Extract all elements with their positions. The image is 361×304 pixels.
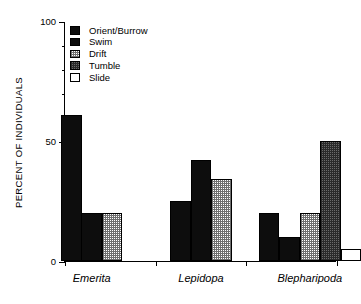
x-axis-category-label: Lepidopa <box>178 273 223 284</box>
legend-item-label: Slide <box>89 73 110 83</box>
x-axis-category-label: Emerita <box>73 273 111 284</box>
bar <box>279 237 300 261</box>
x-axis-tick <box>246 261 247 266</box>
y-axis-major-tick <box>59 22 65 23</box>
legend-item-label: Orient/Burrow <box>89 26 148 36</box>
bar <box>320 141 341 261</box>
x-axis-tick <box>337 261 338 266</box>
chart-legend: Orient/BurrowSwimDriftTumbleSlide <box>70 25 148 84</box>
bar <box>61 115 82 261</box>
legend-swatch-icon <box>70 61 80 70</box>
legend-item: Slide <box>70 72 148 83</box>
y-axis-tick-label: 0 <box>51 257 56 267</box>
x-axis-tick <box>156 261 157 266</box>
y-axis-minor-tick <box>62 70 66 71</box>
bar <box>81 213 102 261</box>
legend-swatch-icon <box>70 73 80 82</box>
x-axis-tick <box>65 261 66 266</box>
bar <box>259 213 280 261</box>
legend-swatch-icon <box>70 26 80 35</box>
bar <box>170 201 191 261</box>
legend-item: Drift <box>70 49 148 60</box>
y-axis-title-text: PERCENT OF INDIVIDUALS <box>14 76 25 207</box>
y-axis-title: PERCENT OF INDIVIDUALS <box>12 22 26 262</box>
y-axis-minor-tick <box>62 94 66 95</box>
bar <box>191 160 212 261</box>
legend-item-label: Drift <box>89 49 106 59</box>
legend-item-label: Tumble <box>89 61 120 71</box>
bar <box>102 213 123 261</box>
y-axis-minor-tick <box>62 46 66 47</box>
legend-swatch-icon <box>70 50 80 59</box>
bar <box>341 249 361 261</box>
x-axis-category-label: Blepharipoda <box>277 273 342 284</box>
legend-item-label: Swim <box>89 37 112 47</box>
y-axis-tick-label: 100 <box>40 17 56 27</box>
legend-item: Orient/Burrow <box>70 25 148 36</box>
bar <box>300 213 321 261</box>
legend-item: Tumble <box>70 60 148 71</box>
bar <box>211 179 232 261</box>
legend-item: Swim <box>70 37 148 48</box>
legend-swatch-icon <box>70 38 80 47</box>
y-axis-tick-label: 50 <box>45 137 56 147</box>
